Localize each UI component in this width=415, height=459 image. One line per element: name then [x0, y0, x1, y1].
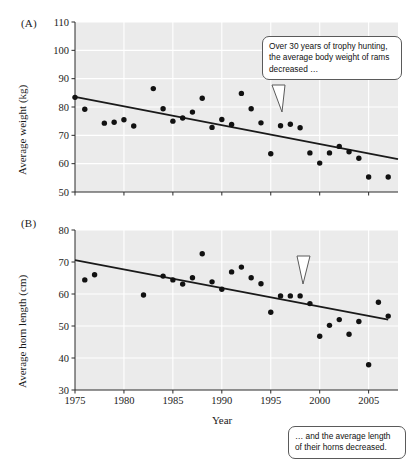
data-point	[248, 106, 253, 111]
data-point	[268, 151, 273, 156]
panel-a-plot: 5060708090100110	[0, 0, 415, 200]
x-tick-label: 2000	[309, 395, 330, 406]
y-tick-label: 60	[59, 158, 70, 169]
x-tick-label: 1995	[260, 395, 281, 406]
data-point	[356, 319, 361, 324]
data-point	[102, 120, 107, 125]
data-point	[151, 86, 156, 91]
data-point	[346, 332, 351, 337]
data-point	[170, 277, 175, 282]
data-point	[356, 156, 361, 161]
y-tick-label: 70	[59, 130, 70, 141]
data-point	[239, 91, 244, 96]
data-point	[200, 251, 205, 256]
data-point	[82, 107, 87, 112]
data-point	[160, 273, 165, 278]
data-point	[297, 125, 302, 130]
data-point	[376, 300, 381, 305]
y-tick-label: 50	[59, 321, 70, 332]
data-point	[288, 293, 293, 298]
data-point	[180, 281, 185, 286]
data-point	[297, 293, 302, 298]
y-tick-label: 90	[59, 73, 70, 84]
x-tick-label: 2005	[358, 395, 379, 406]
x-tick-label: 1980	[113, 395, 134, 406]
data-point	[170, 118, 175, 123]
y-tick-label: 110	[54, 17, 69, 28]
data-point	[366, 174, 371, 179]
data-point	[131, 123, 136, 128]
data-point	[121, 117, 126, 122]
data-point	[288, 122, 293, 127]
data-point	[209, 279, 214, 284]
data-point	[190, 275, 195, 280]
data-point	[278, 123, 283, 128]
x-tick-label: 1975	[65, 395, 86, 406]
data-point	[258, 120, 263, 125]
data-point	[307, 301, 312, 306]
data-point	[258, 281, 263, 286]
data-point	[160, 106, 165, 111]
panel-b-x-axis-label: Year	[212, 414, 232, 426]
y-tick-label: 60	[59, 289, 70, 300]
y-tick-label: 80	[59, 225, 70, 236]
data-point	[82, 277, 87, 282]
data-point	[72, 95, 77, 100]
data-point	[200, 96, 205, 101]
data-point	[219, 117, 224, 122]
y-tick-label: 30	[59, 385, 70, 396]
data-point	[278, 293, 283, 298]
data-point	[209, 125, 214, 130]
data-point	[366, 362, 371, 367]
y-tick-label: 50	[59, 187, 70, 198]
data-point	[229, 122, 234, 127]
data-point	[190, 109, 195, 114]
data-point	[327, 323, 332, 328]
data-point	[337, 317, 342, 322]
y-tick-label: 100	[53, 45, 69, 56]
panel-a-callout: Over 30 years of trophy hunting, the ave…	[262, 36, 402, 80]
data-point	[317, 334, 322, 339]
y-tick-label: 80	[59, 102, 70, 113]
data-point	[307, 150, 312, 155]
data-point	[219, 287, 224, 292]
data-point	[248, 275, 253, 280]
data-point	[268, 310, 273, 315]
data-point	[337, 144, 342, 149]
data-point	[141, 292, 146, 297]
data-point	[327, 150, 332, 155]
data-point	[111, 120, 116, 125]
panel-b-callout: … and the average length of their horns …	[288, 426, 406, 459]
data-point	[317, 160, 322, 165]
data-point	[92, 272, 97, 277]
panel-b-plot: 3040506070801975198019851990199520002005	[0, 208, 415, 437]
y-tick-label: 40	[59, 353, 70, 364]
panel-a: (A) Average weight (kg) 5060708090100110…	[0, 0, 415, 200]
data-point	[346, 149, 351, 154]
data-point	[180, 115, 185, 120]
panel-b: (B) Average horn length (cm) 30405060708…	[0, 208, 415, 437]
data-point	[229, 269, 234, 274]
data-point	[386, 313, 391, 318]
data-point	[386, 174, 391, 179]
x-tick-label: 1985	[162, 395, 183, 406]
x-tick-label: 1990	[211, 395, 232, 406]
data-point	[239, 264, 244, 269]
y-tick-label: 70	[59, 257, 70, 268]
